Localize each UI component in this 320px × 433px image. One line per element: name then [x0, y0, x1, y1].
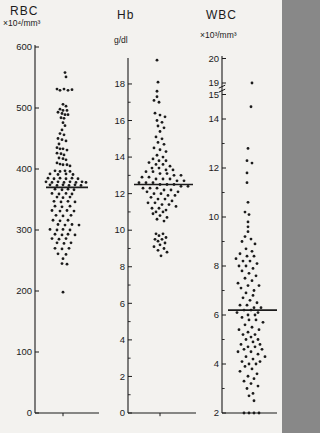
wbc-data-point	[257, 311, 260, 314]
hb-data-point	[163, 189, 166, 192]
rbc-data-point	[56, 241, 59, 244]
rbc-data-point	[62, 228, 65, 231]
rbc-data-point	[54, 233, 57, 236]
hb-tick-label: 14	[114, 151, 125, 162]
rbc-data-point	[67, 219, 70, 222]
rbc-data-point	[60, 152, 63, 155]
rbc-data-point	[70, 214, 73, 217]
wbc-data-point	[256, 262, 259, 265]
rbc-data-point	[62, 103, 65, 106]
rbc-data-point	[78, 224, 81, 227]
hb-points	[138, 59, 190, 257]
rbc-data-point	[66, 163, 69, 166]
rbc-data-point	[71, 193, 74, 196]
wbc-data-point	[247, 230, 250, 233]
wbc-data-point	[255, 274, 258, 277]
hb-data-point	[153, 192, 156, 195]
hb-data-point	[148, 161, 151, 164]
rbc-data-point	[62, 109, 65, 112]
wbc-data-point	[241, 360, 244, 363]
rbc-data-point	[61, 262, 64, 265]
rbc-data-point	[63, 133, 66, 136]
wbc-data-point	[254, 314, 257, 317]
hb-data-point	[163, 247, 166, 250]
wbc-data-point	[241, 270, 244, 273]
rbc-data-point	[71, 223, 74, 226]
hb-data-point	[160, 254, 163, 257]
hb-data-point	[166, 251, 169, 254]
hb-data-point	[155, 211, 158, 214]
hb-data-point	[156, 218, 159, 221]
rbc-data-point	[63, 181, 66, 184]
rbc-data-point	[51, 192, 54, 195]
hb-data-point	[155, 232, 158, 235]
rbc-data-point	[59, 147, 62, 150]
hb-data-point	[148, 176, 151, 179]
wbc-data-point	[239, 370, 242, 373]
hb-data-point	[156, 119, 159, 122]
hb-data-point	[165, 236, 168, 239]
hb-tick-label: 4	[120, 334, 125, 345]
wbc-data-point	[245, 265, 248, 268]
hb-data-point	[141, 176, 144, 179]
rbc-data-point	[69, 165, 72, 168]
rbc-data-point	[61, 205, 64, 208]
hb-data-point	[153, 99, 156, 102]
wbc-tick-label: 19	[208, 77, 219, 88]
rbc-data-point	[71, 88, 74, 91]
rbc-data-point	[62, 147, 65, 150]
wbc-data-point	[253, 289, 256, 292]
hb-tick-label: 10	[114, 224, 125, 235]
rbc-data-point	[62, 157, 65, 160]
hb-data-point	[161, 121, 164, 124]
hb-data-point	[170, 189, 173, 192]
hb-data-point	[157, 125, 160, 128]
hb-data-point	[165, 150, 168, 153]
wbc-data-point	[247, 284, 250, 287]
hb-data-point	[169, 165, 172, 168]
rbc-data-point	[60, 116, 63, 119]
rbc-data-point	[51, 237, 54, 240]
rbc-data-point	[59, 210, 62, 213]
hb-data-point	[168, 203, 171, 206]
rbc-data-point	[65, 177, 68, 180]
rbc-data-point	[68, 184, 71, 187]
rbc-data-point	[67, 113, 70, 116]
wbc-data-point	[235, 257, 238, 260]
rbc-data-point	[59, 89, 62, 92]
rbc-data-point	[59, 163, 62, 166]
wbc-data-point	[246, 255, 249, 258]
rbc-data-point	[73, 210, 76, 213]
rbc-data-point	[51, 181, 54, 184]
hb-data-point	[165, 209, 168, 212]
hb-data-point	[158, 167, 161, 170]
hb-data-point	[163, 126, 166, 129]
hb-data-point	[161, 203, 164, 206]
rbc-data-point	[57, 111, 60, 114]
rbc-data-point	[70, 241, 73, 244]
rbc-data-point	[56, 229, 59, 232]
rbc-data-point	[49, 172, 52, 175]
rbc-data-point	[57, 252, 60, 255]
wbc-data-point	[245, 292, 248, 295]
rbc-data-point	[59, 177, 62, 180]
rbc-data-point	[52, 219, 55, 222]
rbc-data-point	[65, 75, 68, 78]
hb-data-point	[159, 214, 162, 217]
hb-data-point	[183, 179, 186, 182]
rbc-data-point	[73, 188, 76, 191]
rbc-data-point	[64, 71, 67, 74]
hb-data-point	[176, 179, 179, 182]
rbc-data-point	[85, 181, 88, 184]
hb-data-point	[157, 141, 160, 144]
rbc-data-point	[72, 173, 75, 176]
wbc-data-point	[253, 399, 256, 402]
rbc-data-point	[57, 137, 60, 140]
wbc-tick-label: 12	[208, 162, 219, 173]
rbc-data-point	[55, 214, 58, 217]
rbc-data-point	[49, 228, 52, 231]
wbc-data-point	[236, 311, 239, 314]
wbc-data-point	[245, 355, 248, 358]
wbc-data-point	[249, 260, 252, 263]
hb-data-point	[145, 170, 148, 173]
